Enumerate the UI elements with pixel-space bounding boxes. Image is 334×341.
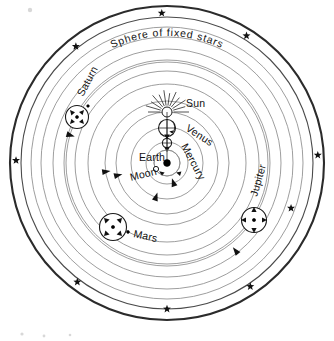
- jupiter-body-icon: [252, 218, 255, 221]
- star-sse: [246, 282, 254, 290]
- saturn-body-icon: [76, 116, 79, 119]
- star-e: [314, 151, 322, 159]
- arrow-jupiter-orbit: [231, 245, 241, 255]
- mars-body-icon: [111, 225, 114, 228]
- cosmos-svg: Sphere of fixed stars Sun Venus Mercury: [0, 0, 334, 341]
- scan-speck: [28, 8, 32, 12]
- star-s: [163, 305, 171, 313]
- moon-label: Moon: [129, 165, 158, 183]
- sun-ray: [164, 90, 166, 105]
- mars-group: [100, 214, 130, 241]
- sun-ray: [159, 95, 164, 106]
- scan-speck: [69, 334, 72, 337]
- scan-speck: [43, 335, 46, 338]
- star-n: [158, 9, 166, 17]
- saturn-label: Saturn: [74, 64, 100, 98]
- cosmology-diagram: Sphere of fixed stars Sun Venus Mercury: [0, 0, 334, 341]
- star-jupiter-outer: [287, 204, 295, 212]
- earth-label: Earth: [139, 151, 165, 163]
- jupiter-group: [241, 207, 267, 233]
- scan-speck: [20, 332, 23, 335]
- sun-group: [146, 90, 189, 117]
- sun-ray: [168, 93, 170, 105]
- mars-label: Mars: [133, 227, 159, 244]
- star-w: [12, 156, 20, 164]
- star-nne: [242, 32, 250, 40]
- star-ssw: [73, 278, 81, 286]
- saturn-group: [66, 105, 90, 129]
- sun-label: Sun: [186, 97, 205, 109]
- sun-ray: [170, 92, 176, 106]
- sphere-of-fixed-stars-label: Sphere of fixed stars: [108, 26, 226, 50]
- jupiter-label: Jupiter: [247, 162, 268, 197]
